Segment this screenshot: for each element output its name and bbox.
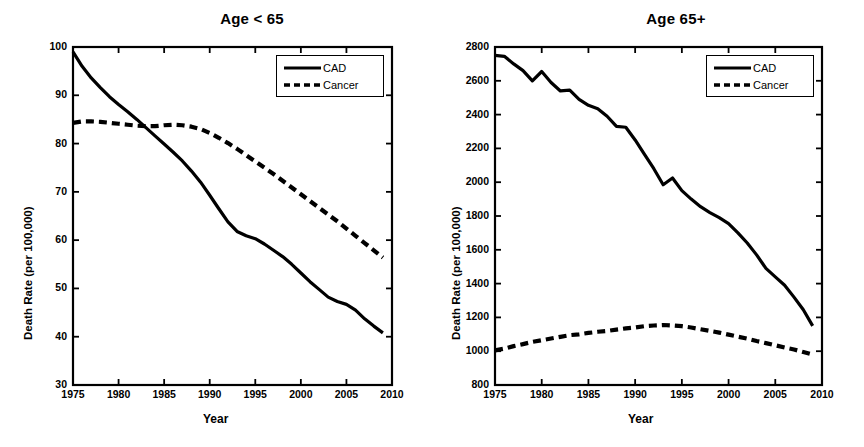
y-tick-label: 2000: [447, 175, 489, 187]
x-tick-label: 1985: [142, 388, 186, 400]
y-tick-label: 2200: [447, 141, 489, 153]
legend-right: CADCancer: [706, 55, 814, 97]
y-tick-label: 40: [25, 330, 67, 342]
y-tick-label: 60: [25, 233, 67, 245]
y-tick-label: 2800: [447, 40, 489, 52]
y-tick-label: 50: [25, 281, 67, 293]
x-tick-label: 1975: [51, 388, 95, 400]
legend-label: Cancer: [323, 79, 358, 91]
series-line-cancer: [73, 121, 383, 257]
y-tick-label: 90: [25, 88, 67, 100]
legend-entry-cancer: Cancer: [281, 76, 379, 93]
series-line-cancer: [495, 325, 813, 355]
legend-left: CADCancer: [276, 55, 384, 97]
x-tick-label: 1980: [97, 388, 141, 400]
legend-swatch-dashed: [281, 79, 323, 91]
x-tick-label: 2010: [800, 388, 844, 400]
y-tick-label: 2600: [447, 74, 489, 86]
x-tick-label: 2005: [753, 388, 797, 400]
figure-two-panel-line-charts: Age < 65 Death Rate (per 100,000) Year 3…: [0, 0, 864, 447]
legend-entry-cancer: Cancer: [711, 76, 809, 93]
panel-age-65-plus: Age 65+ Death Rate (per 100,000) Year 80…: [432, 0, 864, 447]
x-tick-label: 2000: [279, 388, 323, 400]
y-tick-label: 80: [25, 137, 67, 149]
x-tick-label: 1995: [660, 388, 704, 400]
legend-label: CAD: [323, 62, 346, 74]
panel-age-under-65: Age < 65 Death Rate (per 100,000) Year 3…: [0, 0, 432, 447]
y-tick-label: 1400: [447, 277, 489, 289]
x-tick-label: 2010: [370, 388, 414, 400]
legend-entry-cad: CAD: [711, 59, 809, 76]
legend-label: Cancer: [753, 79, 788, 91]
y-tick-label: 2400: [447, 108, 489, 120]
legend-swatch-dashed: [711, 79, 753, 91]
legend-entry-cad: CAD: [281, 59, 379, 76]
x-tick-label: 1990: [188, 388, 232, 400]
x-tick-label: 2000: [707, 388, 751, 400]
x-tick-label: 1995: [233, 388, 277, 400]
x-tick-label: 1990: [613, 388, 657, 400]
y-tick-label: 1600: [447, 243, 489, 255]
x-tick-label: 1980: [520, 388, 564, 400]
y-tick-label: 100: [25, 40, 67, 52]
y-tick-label: 70: [25, 185, 67, 197]
y-tick-label: 1200: [447, 310, 489, 322]
y-tick-label: 1000: [447, 344, 489, 356]
legend-swatch-solid: [711, 62, 753, 74]
legend-swatch-solid: [281, 62, 323, 74]
x-tick-label: 2005: [324, 388, 368, 400]
legend-label: CAD: [753, 62, 776, 74]
y-tick-label: 1800: [447, 209, 489, 221]
x-tick-label: 1985: [566, 388, 610, 400]
x-tick-label: 1975: [473, 388, 517, 400]
